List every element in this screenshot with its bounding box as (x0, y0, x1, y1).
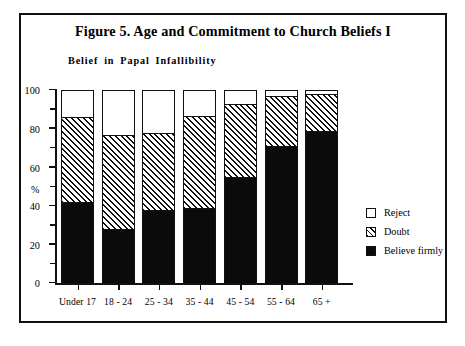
bar-segment-reject (142, 90, 175, 132)
bar-segment-believe-firmly (265, 146, 298, 283)
bar-segment-doubt (61, 117, 94, 202)
y-axis-title: % (31, 183, 39, 194)
bar-segment-reject (61, 90, 94, 117)
y-tick-10 (50, 263, 55, 264)
figure-frame: Figure 5. Age and Commitment to Church B… (19, 13, 447, 323)
y-tick-label-20: 20 (30, 239, 40, 250)
legend-swatch-white (366, 208, 376, 218)
y-tick-60 (49, 166, 56, 168)
bar-segment-doubt (305, 94, 338, 131)
bar-segment-reject (224, 90, 257, 104)
bar-segment-doubt (183, 116, 216, 209)
bar-column (102, 90, 135, 283)
y-tick-50 (50, 186, 55, 187)
x-tick-label: 65 + (313, 296, 331, 307)
y-tick-label-80: 80 (30, 124, 40, 135)
x-tick (322, 285, 324, 290)
x-tick (200, 285, 202, 290)
y-tick-label-60: 60 (30, 162, 40, 173)
chart-legend: RejectDoubtBelieve firmly (366, 203, 443, 260)
bar-segment-believe-firmly (224, 177, 257, 283)
bar-segment-reject (102, 90, 135, 134)
bar-segment-doubt (224, 104, 257, 177)
y-tick-40 (49, 205, 56, 207)
bar-segment-believe-firmly (183, 208, 216, 283)
y-tick-30 (50, 224, 55, 225)
bar-column (142, 90, 175, 283)
plot-area: % 020406080100 Under 1718 - 2425 - 3435 … (55, 92, 351, 285)
y-axis-line (55, 89, 57, 285)
bar-column (61, 90, 94, 283)
bar-column (305, 90, 338, 283)
y-tick-label-0: 0 (35, 278, 40, 289)
x-tick-label: Under 17 (59, 296, 96, 307)
legend-label: Doubt (384, 226, 409, 237)
legend-item: Doubt (366, 222, 443, 241)
bar-column (224, 90, 257, 283)
x-tick-label: 18 - 24 (104, 296, 132, 307)
chart-subtitle: Belief in Papal Infallibility (68, 55, 217, 66)
y-tick-100 (49, 89, 56, 91)
legend-swatch-hatched (366, 227, 376, 237)
x-tick-label: 55 - 64 (267, 296, 295, 307)
page-title: Figure 5. Age and Commitment to Church B… (21, 23, 445, 40)
x-tick (159, 285, 161, 290)
bar-segment-believe-firmly (142, 210, 175, 283)
legend-item: Reject (366, 203, 443, 222)
legend-label: Believe firmly (384, 245, 443, 256)
x-tick (118, 285, 120, 290)
bar-column (265, 90, 298, 283)
y-tick-20 (49, 243, 56, 245)
bar-segment-doubt (142, 133, 175, 210)
x-tick (78, 285, 80, 290)
x-tick-label: 35 - 44 (186, 296, 214, 307)
y-tick-0 (49, 282, 56, 284)
x-tick (281, 285, 283, 290)
bar-segment-doubt (265, 96, 298, 146)
x-tick-label: 45 - 54 (226, 296, 254, 307)
bar-segment-believe-firmly (61, 202, 94, 283)
legend-item: Believe firmly (366, 241, 443, 260)
y-tick-80 (49, 127, 56, 129)
x-tick (240, 285, 242, 290)
y-tick-label-40: 40 (30, 201, 40, 212)
bar-segment-reject (183, 90, 216, 115)
x-tick-label: 25 - 34 (145, 296, 173, 307)
bar-segment-believe-firmly (305, 131, 338, 283)
bar-column (183, 90, 216, 283)
legend-label: Reject (384, 207, 410, 218)
legend-swatch-black (366, 246, 376, 256)
y-tick-90 (50, 108, 55, 109)
x-axis-line (55, 283, 353, 285)
y-tick-70 (50, 147, 55, 148)
y-tick-label-100: 100 (25, 85, 40, 96)
bar-segment-doubt (102, 135, 135, 230)
bar-segment-believe-firmly (102, 229, 135, 283)
